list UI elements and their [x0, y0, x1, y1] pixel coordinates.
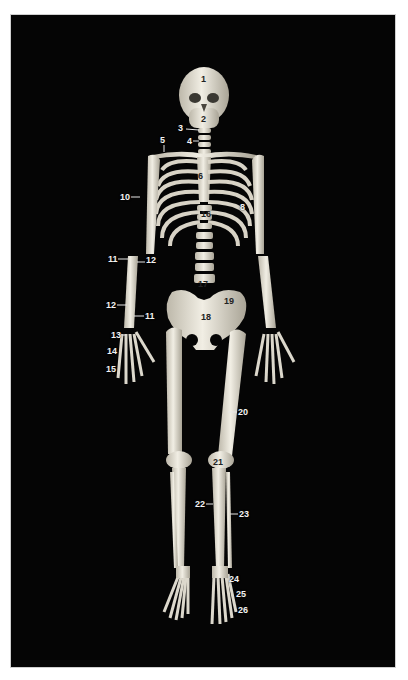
label-25: 25: [236, 590, 246, 599]
skeleton-photo: 1234568101611121719121118131415202122232…: [11, 15, 395, 667]
label-6: 6: [198, 172, 203, 181]
label-16: 16: [201, 210, 211, 219]
forearm-right: [124, 256, 138, 328]
skeleton-illustration: [11, 15, 395, 667]
label-26: 26: [238, 606, 248, 615]
label-10: 10: [120, 193, 130, 202]
hand-right: [118, 332, 154, 384]
label-20: 20: [238, 408, 248, 417]
tibia-left: [212, 468, 226, 568]
label-13: 13: [111, 331, 121, 340]
label-8: 8: [240, 203, 245, 212]
label-3: 3: [178, 124, 183, 133]
label-2: 2: [201, 115, 206, 124]
femur-left: [218, 329, 246, 456]
label-22: 22: [195, 500, 205, 509]
label-11: 11: [108, 255, 118, 264]
label-5: 5: [160, 136, 165, 145]
label-24: 24: [229, 575, 239, 584]
fibula-left: [226, 472, 232, 568]
label-12: 12: [106, 301, 116, 310]
cervical-spine: [198, 128, 211, 154]
label-23: 23: [239, 510, 249, 519]
hand-left: [256, 332, 294, 384]
label-12: 12: [146, 256, 156, 265]
forearm-left: [258, 256, 276, 328]
leader-line-3: [186, 129, 199, 130]
label-15: 15: [106, 365, 116, 374]
label-21: 21: [213, 458, 223, 467]
label-17: 17: [198, 280, 208, 289]
label-11: 11: [145, 312, 155, 321]
label-4: 4: [187, 137, 192, 146]
humerus-left: [252, 155, 264, 254]
label-18: 18: [201, 313, 211, 322]
label-14: 14: [107, 347, 117, 356]
label-19: 19: [224, 297, 234, 306]
femur-right: [166, 327, 182, 454]
foot-right: [164, 572, 188, 620]
label-1: 1: [201, 75, 206, 84]
